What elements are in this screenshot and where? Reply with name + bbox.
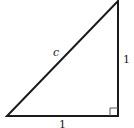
hypotenuse-label: c bbox=[53, 46, 59, 59]
right-angle-marker bbox=[110, 108, 118, 116]
right-triangle bbox=[7, 1, 118, 116]
triangle-diagram: c 1 1 bbox=[0, 0, 134, 128]
vertical-leg-label: 1 bbox=[123, 53, 130, 66]
horizontal-leg-label: 1 bbox=[59, 118, 66, 128]
